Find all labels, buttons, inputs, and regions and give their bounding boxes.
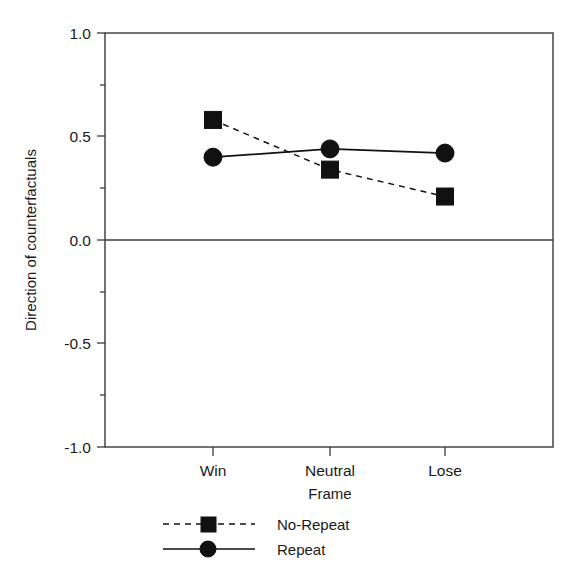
y-axis-major-ticks bbox=[97, 33, 105, 447]
y-tick-label-4: -1.0 bbox=[64, 439, 91, 456]
data-point bbox=[322, 161, 339, 178]
legend-marker-circle-icon bbox=[200, 541, 216, 557]
y-axis-title: Direction of counterfactuals bbox=[22, 149, 39, 331]
data-point bbox=[321, 140, 339, 158]
x-tick-label-1: Neutral bbox=[305, 462, 355, 479]
legend-label-no-repeat: No-Repeat bbox=[277, 516, 350, 533]
data-point bbox=[205, 111, 222, 128]
x-tick-label-0: Win bbox=[200, 462, 227, 479]
x-tick-label-2: Lose bbox=[428, 462, 462, 479]
legend-label-repeat: Repeat bbox=[277, 541, 326, 558]
counterfactuals-line-chart: 1.0 0.5 0.0 -0.5 -1.0 Direction of count… bbox=[0, 0, 580, 569]
y-tick-label-1: 0.5 bbox=[69, 128, 91, 145]
data-point bbox=[437, 188, 454, 205]
y-tick-label-0: 1.0 bbox=[69, 25, 91, 42]
legend: No-Repeat Repeat bbox=[163, 516, 350, 558]
x-axis-title: Frame bbox=[308, 485, 351, 502]
y-tick-label-3: -0.5 bbox=[64, 335, 91, 352]
x-axis-ticks bbox=[213, 447, 445, 456]
legend-entry-no-repeat: No-Repeat bbox=[163, 516, 350, 533]
data-point bbox=[436, 144, 454, 162]
x-axis-tick-labels: Win Neutral Lose bbox=[200, 462, 462, 479]
y-axis-tick-labels: 1.0 0.5 0.0 -0.5 -1.0 bbox=[64, 25, 91, 456]
data-point bbox=[204, 148, 222, 166]
y-tick-label-2: 0.0 bbox=[69, 232, 91, 249]
legend-marker-square-icon bbox=[201, 517, 216, 532]
legend-entry-repeat: Repeat bbox=[163, 541, 326, 558]
